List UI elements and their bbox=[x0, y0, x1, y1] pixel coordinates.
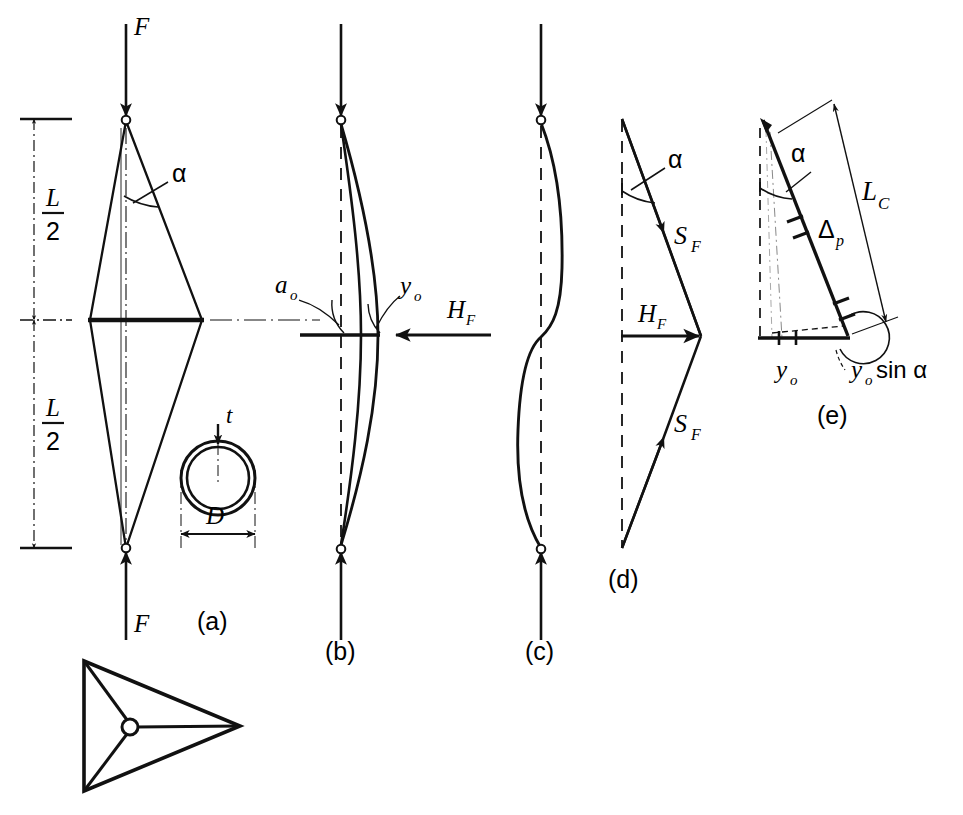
panel-b-pin-top bbox=[337, 116, 346, 125]
panel-c-caption: (c) bbox=[525, 637, 554, 665]
panel-e-yo-sin-rest: sin α bbox=[876, 356, 927, 383]
panel-a-angle-label: α bbox=[172, 159, 186, 187]
tube-thickness-label: t bbox=[226, 403, 233, 428]
panel-b-ao-label-main: a bbox=[275, 271, 288, 298]
panel-e-lc-main: L bbox=[861, 176, 877, 206]
panel-a-pin-bottom bbox=[122, 544, 131, 553]
panel-a-force-label-bottom: F bbox=[133, 610, 150, 637]
panel-e-caption: (e) bbox=[817, 401, 848, 429]
panel-c-pin-top bbox=[537, 116, 546, 125]
half-length-lower-denominator: 2 bbox=[46, 427, 60, 455]
panel-d-angle-label: α bbox=[668, 145, 682, 173]
panel-d-sf-lower-sub: F bbox=[690, 426, 701, 443]
panel-d-sf-lower-main: S bbox=[674, 409, 687, 438]
panel-e-delta-main: Δ bbox=[818, 215, 835, 243]
panel-b-caption: (b) bbox=[325, 637, 356, 665]
panel-e-yo-sin-main: y bbox=[848, 356, 863, 383]
panel-d-hf-label-sub: F bbox=[656, 316, 667, 332]
panel-b-yo-label-main: y bbox=[397, 272, 412, 299]
panel-a-caption: (a) bbox=[197, 607, 228, 635]
panel-b-pin-bottom bbox=[337, 545, 346, 554]
panel-d-sf-upper-main: S bbox=[674, 221, 687, 250]
panel-d-sf-upper-sub: F bbox=[690, 238, 701, 255]
panel-a-pin-top bbox=[122, 116, 131, 125]
panel-e-yo-sin-sub: o bbox=[865, 372, 873, 388]
panel-a-force-label-top: F bbox=[133, 13, 150, 40]
panel-e-yo-main: y bbox=[773, 356, 788, 383]
panel-e-angle-label: α bbox=[791, 139, 805, 167]
panel-b-yo-label-sub: o bbox=[414, 288, 422, 304]
panel-e-lc-sub: C bbox=[878, 194, 890, 213]
figure-canvas: L 2 L 2 F F bbox=[0, 0, 963, 815]
tube-diameter-label: D bbox=[205, 502, 224, 529]
panel-c-pin-bottom bbox=[537, 545, 546, 554]
panel-d-hf-label-main: H bbox=[637, 300, 658, 327]
end-view-spoke-right bbox=[136, 726, 240, 727]
half-length-lower-numerator: L bbox=[45, 394, 60, 421]
panel-d-caption: (d) bbox=[608, 565, 639, 593]
half-length-upper-denominator: 2 bbox=[46, 217, 60, 245]
end-view-hub bbox=[122, 719, 138, 735]
engineering-figure: L 2 L 2 F F bbox=[0, 0, 963, 815]
half-length-upper-numerator: L bbox=[45, 184, 60, 211]
panel-b-ao-label-sub: o bbox=[290, 287, 298, 303]
panel-e-yo-sub: o bbox=[790, 372, 798, 388]
panel-b-hf-label-main: H bbox=[446, 296, 467, 323]
panel-b-hf-label-sub: F bbox=[465, 312, 476, 328]
panel-e-delta-sub: p bbox=[835, 232, 844, 250]
